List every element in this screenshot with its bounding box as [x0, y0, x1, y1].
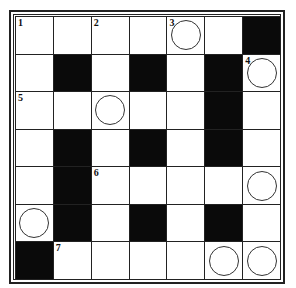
- black-square: [205, 205, 243, 243]
- crossword-cell[interactable]: [130, 92, 168, 130]
- crossword-cell[interactable]: [205, 167, 243, 205]
- crossword-cell[interactable]: [167, 130, 205, 168]
- crossword-cell[interactable]: [167, 205, 205, 243]
- black-square: [54, 205, 92, 243]
- black-square: [205, 130, 243, 168]
- crossword-cell[interactable]: 5: [16, 92, 54, 130]
- crossword-cell[interactable]: 6: [92, 167, 130, 205]
- black-square: [243, 17, 281, 55]
- clue-number: 5: [18, 92, 23, 103]
- black-square: [16, 242, 54, 280]
- crossword-cell[interactable]: [243, 130, 281, 168]
- crossword-cell[interactable]: [92, 55, 130, 93]
- black-square: [54, 55, 92, 93]
- crossword-cell[interactable]: [205, 17, 243, 55]
- crossword-cell[interactable]: [16, 55, 54, 93]
- crossword-cell[interactable]: [243, 167, 281, 205]
- crossword-cell[interactable]: [16, 130, 54, 168]
- crossword-cell[interactable]: 7: [54, 242, 92, 280]
- black-square: [130, 55, 168, 93]
- crossword-cell[interactable]: [130, 167, 168, 205]
- crossword-cell[interactable]: [167, 92, 205, 130]
- crossword-cell[interactable]: [54, 92, 92, 130]
- crossword-cell[interactable]: 3: [167, 17, 205, 55]
- crossword-cell[interactable]: [243, 242, 281, 280]
- circle-marker-icon: [19, 208, 49, 238]
- crossword-cell[interactable]: 2: [92, 17, 130, 55]
- crossword-cell[interactable]: [92, 130, 130, 168]
- black-square: [54, 167, 92, 205]
- crossword-cell[interactable]: 4: [243, 55, 281, 93]
- clue-number: 7: [56, 242, 61, 253]
- clue-number: 6: [94, 167, 99, 178]
- crossword-cell[interactable]: 1: [16, 17, 54, 55]
- crossword-cell[interactable]: [92, 92, 130, 130]
- circle-marker-icon: [247, 58, 277, 88]
- black-square: [54, 130, 92, 168]
- circle-marker-icon: [247, 171, 277, 201]
- crossword-cell[interactable]: [92, 242, 130, 280]
- crossword-cell[interactable]: [16, 205, 54, 243]
- crossword-cell[interactable]: [130, 17, 168, 55]
- black-square: [130, 130, 168, 168]
- crossword-grid: 1234567: [15, 16, 281, 280]
- circle-marker-icon: [209, 246, 239, 276]
- black-square: [205, 92, 243, 130]
- crossword-cell[interactable]: [16, 167, 54, 205]
- circle-marker-icon: [95, 95, 125, 125]
- crossword-cell[interactable]: [205, 242, 243, 280]
- crossword-cell[interactable]: [130, 242, 168, 280]
- clue-number: 3: [169, 17, 174, 28]
- clue-number: 2: [94, 17, 99, 28]
- circle-marker-icon: [171, 20, 201, 50]
- circle-marker-icon: [247, 246, 277, 276]
- crossword-cell[interactable]: [167, 242, 205, 280]
- clue-number: 4: [245, 55, 250, 66]
- crossword-cell[interactable]: [243, 92, 281, 130]
- crossword-cell[interactable]: [92, 205, 130, 243]
- crossword-cell[interactable]: [167, 55, 205, 93]
- black-square: [130, 205, 168, 243]
- clue-number: 1: [18, 17, 23, 28]
- crossword-cell[interactable]: [243, 205, 281, 243]
- black-square: [205, 55, 243, 93]
- crossword-cell[interactable]: [54, 17, 92, 55]
- crossword-cell[interactable]: [167, 167, 205, 205]
